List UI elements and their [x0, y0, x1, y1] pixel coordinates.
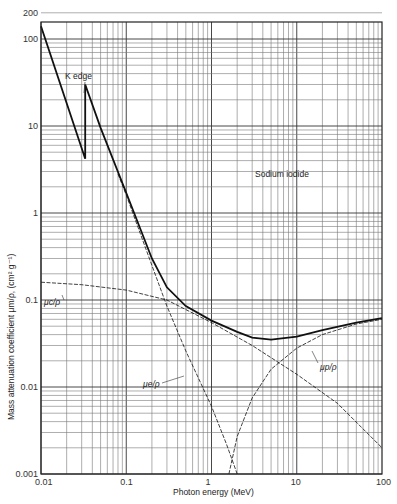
svg-text:10: 10 [28, 121, 38, 131]
grid [41, 13, 382, 474]
svg-text:10: 10 [291, 477, 301, 487]
compton-label: μc/ρ [43, 297, 60, 307]
k-edge-label: K edge [65, 71, 92, 81]
pair-label: μp/ρ [319, 362, 337, 372]
svg-text:1: 1 [33, 208, 38, 218]
svg-text:0.1: 0.1 [25, 295, 38, 305]
attenuation-chart: 0.010.11101000.0010.010.1110100200 Sodiu… [0, 0, 397, 504]
x-axis-label: Photon energy (MeV) [173, 487, 254, 497]
svg-text:200: 200 [23, 8, 38, 18]
svg-text:0.001: 0.001 [15, 469, 38, 479]
svg-text:0.1: 0.1 [120, 477, 133, 487]
svg-text:1: 1 [206, 477, 211, 487]
series-3 [229, 319, 382, 474]
y-axis-label: Mass attenuation coefficient μm/ρ, (cm² … [6, 254, 16, 420]
svg-text:0.01: 0.01 [20, 382, 38, 392]
svg-text:100: 100 [376, 477, 391, 487]
svg-text:100: 100 [23, 34, 38, 44]
photoelectric-label: μe/ρ [142, 379, 160, 389]
chart-title: Sodium iodide [255, 169, 309, 179]
